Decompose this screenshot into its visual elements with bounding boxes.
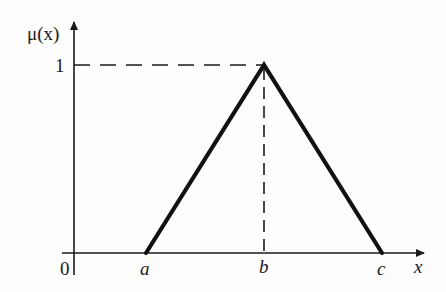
y-tick-one: 1 (55, 56, 65, 75)
x-tick-c: c (377, 259, 385, 278)
x-tick-b: b (259, 257, 269, 276)
y-axis-label: μ(x) (27, 24, 59, 43)
membership-function-diagram: μ(x) 1 0 a b c x (0, 0, 446, 292)
origin-label: 0 (60, 259, 70, 278)
diagram-graphics (0, 0, 446, 292)
x-axis-label: x (414, 257, 422, 276)
x-tick-a: a (140, 259, 150, 278)
